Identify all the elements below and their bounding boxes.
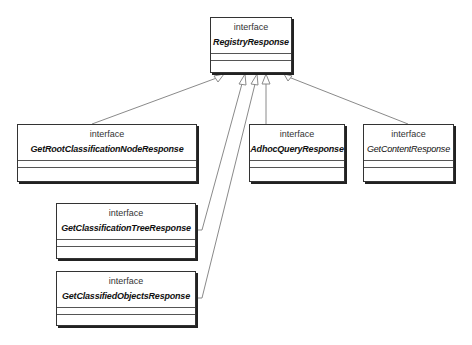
generalization-arrowhead-icon xyxy=(239,74,246,85)
attributes-compartment xyxy=(57,240,195,247)
name-compartment: interface AdhocQueryResponse xyxy=(250,125,344,161)
name-compartment: interface GetClassifiedObjectsResponse xyxy=(57,272,195,308)
name-compartment: interface GetContentResponse xyxy=(364,125,453,161)
diagram-canvas: interface RegistryResponse interface Get… xyxy=(0,0,472,345)
class-get-content-response[interactable]: interface GetContentResponse xyxy=(363,124,454,182)
class-name: GetContentResponse xyxy=(364,143,453,156)
stereotype-label: interface xyxy=(57,207,195,219)
stereotype-label: interface xyxy=(18,128,196,140)
generalization-arrowhead-icon xyxy=(251,74,258,85)
name-compartment: interface GetClassificationTreeResponse xyxy=(57,204,195,240)
edge-getobjects-to-registry xyxy=(196,80,256,298)
generalization-arrowhead-icon xyxy=(214,74,224,82)
stereotype-label: interface xyxy=(364,128,453,140)
name-compartment: interface RegistryResponse xyxy=(211,18,291,54)
generalization-arrowhead-icon xyxy=(284,74,292,81)
edge-gettree-to-registry xyxy=(196,80,243,230)
attributes-compartment xyxy=(364,161,453,168)
class-name: GetClassificationTreeResponse xyxy=(57,222,195,235)
class-get-classification-tree-response[interactable]: interface GetClassificationTreeResponse xyxy=(56,203,196,259)
class-get-classified-objects-response[interactable]: interface GetClassifiedObjectsResponse xyxy=(56,271,196,326)
attributes-compartment xyxy=(18,161,196,168)
class-name: RegistryResponse xyxy=(211,36,291,49)
class-registry-response[interactable]: interface RegistryResponse xyxy=(210,17,292,73)
class-name: AdhocQueryResponse xyxy=(250,143,344,156)
name-compartment: interface GetRootClassificationNodeRespo… xyxy=(18,125,196,161)
class-name: GetClassifiedObjectsResponse xyxy=(57,290,195,303)
generalization-arrowhead-icon xyxy=(262,74,270,84)
stereotype-label: interface xyxy=(57,275,195,287)
class-name: GetRootClassificationNodeResponse xyxy=(18,143,196,156)
attributes-compartment xyxy=(57,308,195,315)
edge-getcontent-to-registry xyxy=(286,76,408,124)
class-get-root-classification-node-response[interactable]: interface GetRootClassificationNodeRespo… xyxy=(17,124,197,182)
class-adhoc-query-response[interactable]: interface AdhocQueryResponse xyxy=(249,124,345,182)
attributes-compartment xyxy=(250,161,344,168)
stereotype-label: interface xyxy=(211,21,291,33)
attributes-compartment xyxy=(211,54,291,61)
stereotype-label: interface xyxy=(250,128,344,140)
edge-getroot-to-registry xyxy=(92,76,222,124)
